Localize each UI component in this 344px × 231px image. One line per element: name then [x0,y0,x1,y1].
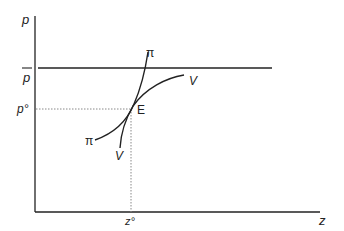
v-curve-label-top: V [189,74,198,88]
v-curve-label-bottom: V [115,149,124,163]
y-axis-label: p [21,12,29,27]
pi-curve-label-top: π [146,46,154,60]
x-axis-label: z [318,213,326,228]
equilibrium-point-label: E [137,103,145,117]
p-bar-label: p [22,70,30,85]
pi-curve [95,52,148,140]
equilibrium-price-label: p° [16,102,29,116]
v-curve [120,75,184,148]
pi-curve-label-bottom: π [85,134,93,148]
equilibrium-quantity-label: z° [124,215,136,227]
diagram-canvas: p z p p° z° E π π V V [0,0,344,231]
diagram-svg: p z p p° z° E π π V V [0,0,344,231]
